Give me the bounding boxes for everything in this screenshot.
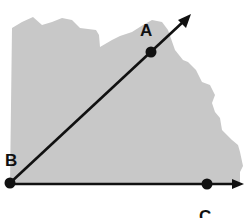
label-a: A — [140, 21, 152, 40]
point-b — [5, 178, 16, 189]
angle-diagram: A B C — [0, 0, 247, 218]
shaded-angle-interior — [10, 17, 243, 184]
point-a — [146, 47, 157, 58]
label-c: C — [199, 207, 211, 218]
point-c — [202, 179, 213, 190]
label-b: B — [5, 151, 17, 170]
